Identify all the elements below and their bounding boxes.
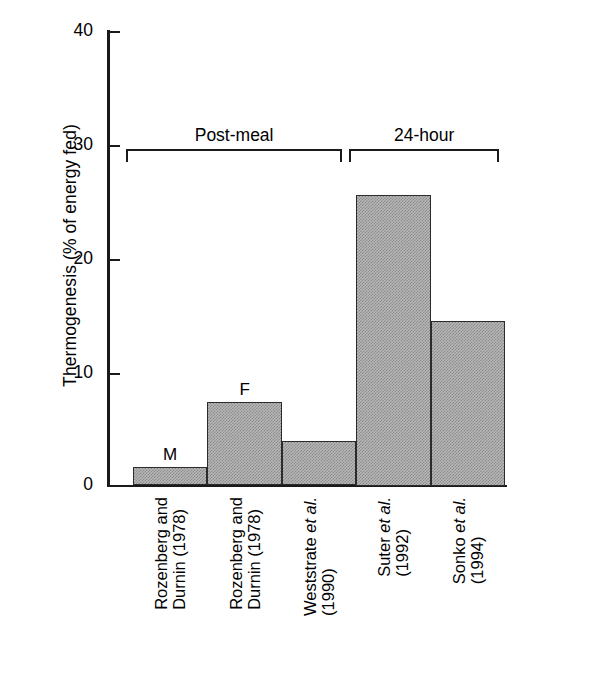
x-category-label: Rozenberg and Durnin (1978) — [133, 497, 207, 672]
x-category-italic1: et al. — [449, 497, 467, 533]
x-category-line2: Durnin (1978) — [245, 509, 263, 610]
x-category-line1: Sonko — [449, 533, 467, 584]
bar-annotation-f: F — [225, 381, 265, 398]
x-category-italic1: et al. — [301, 497, 319, 533]
thermogenesis-bar-chart: Thermogenesis (% of energy fed) 40 30 20… — [0, 0, 608, 675]
x-category-line1: Rozenberg and — [152, 497, 170, 610]
x-category-line2: (1994) — [468, 536, 486, 584]
bar-weststrate-1990[interactable] — [282, 441, 356, 485]
bar-rozenberg-durnin-1978-f[interactable] — [207, 402, 281, 485]
x-category-label: Sonko et al. (1994) — [431, 497, 505, 672]
x-category-line2: (1990) — [319, 568, 337, 616]
x-category-italic1: et al. — [375, 497, 393, 533]
bar-rozenberg-durnin-1978-m[interactable] — [133, 467, 207, 485]
bar-annotation-m: M — [150, 446, 190, 463]
bar-suter-1992[interactable] — [356, 195, 430, 485]
x-category-label: Rozenberg and Durnin (1978) — [207, 497, 281, 672]
bar-sonko-1994[interactable] — [431, 321, 505, 486]
x-category-label: Suter et al. (1992) — [356, 497, 430, 672]
x-category-line2: (1992) — [393, 529, 411, 577]
x-category-line1: Weststrate — [301, 533, 319, 616]
x-category-line1: Suter — [375, 533, 393, 577]
x-category-label: Weststrate et al. (1990) — [282, 497, 356, 672]
x-category-line1: Rozenberg and — [226, 497, 244, 610]
x-category-line2: Durnin (1978) — [170, 509, 188, 610]
